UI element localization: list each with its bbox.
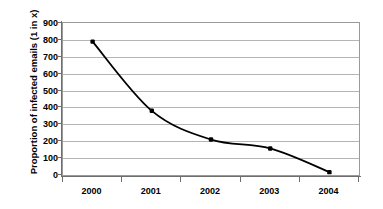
x-axis-tick-label: 2002 [180,186,240,197]
y-axis-tick-label: 100 [24,154,58,163]
y-axis-tick-labels: 9008007006005004003002001000 [24,22,58,176]
data-point-marker [268,146,272,150]
data-point-marker [150,109,154,113]
line-chart: Proportion of infected emails (1 in x) 9… [0,0,383,209]
y-axis-tick-label: 900 [24,19,58,28]
y-axis-tick-mark [57,140,62,141]
data-series-svg [63,23,359,175]
x-axis-tick-mark [240,177,241,182]
y-axis-tick-mark [57,123,62,124]
y-axis-tick-mark [57,39,62,40]
y-axis-tick-mark [57,22,62,23]
y-axis-tick-mark [57,106,62,107]
x-axis-tick-label: 2003 [239,186,299,197]
y-axis-tick-label: 600 [24,70,58,79]
y-axis-tick-mark [57,157,62,158]
y-axis-tick-label: 500 [24,87,58,96]
x-axis-tick-mark [121,177,122,182]
y-axis-tick-mark [57,174,62,175]
plot-area [62,22,360,176]
data-line [93,42,330,173]
x-axis-tick-mark [358,177,359,182]
x-axis-tick-label: 2004 [298,186,358,197]
x-axis-tick-mark [299,177,300,182]
x-axis-tick-label: 2001 [121,186,181,197]
y-axis-tick-label: 200 [24,137,58,146]
y-axis-tick-mark [57,56,62,57]
x-axis-tick-mark [180,177,181,182]
y-axis-tick-label: 800 [24,36,58,45]
y-axis-tick-label: 0 [24,171,58,180]
x-axis-line [62,176,361,177]
y-axis-tick-label: 700 [24,53,58,62]
y-axis-tick-label: 300 [24,120,58,129]
y-axis-tick-mark [57,73,62,74]
x-axis-tick-mark [62,177,63,182]
y-axis-tick-mark [57,90,62,91]
data-point-marker [209,137,213,141]
data-point-marker [327,170,331,174]
data-point-marker [90,39,94,43]
x-axis-tick-labels: 20002001200220032004 [62,186,360,200]
y-axis-tick-label: 400 [24,103,58,112]
x-axis-tick-label: 2000 [62,186,122,197]
